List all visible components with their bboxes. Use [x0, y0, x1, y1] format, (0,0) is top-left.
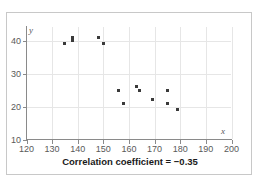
- gridline-x-140: [78, 27, 79, 139]
- x-tick-label-120: 120: [15, 144, 39, 154]
- x-tick-label-130: 130: [40, 144, 64, 154]
- x-axis-label: x: [221, 126, 225, 136]
- x-tick-label-150: 150: [91, 144, 115, 154]
- gridline-x-130: [52, 27, 53, 139]
- y-tick-label-40: 40: [1, 36, 21, 46]
- y-tick-label-20: 20: [1, 102, 21, 112]
- scatter-plot-figure: 10203040 120130140150160170180190200 y x…: [6, 12, 252, 175]
- x-tick-label-180: 180: [168, 144, 192, 154]
- y-tick-label-10: 10: [1, 135, 21, 145]
- data-point: [166, 102, 169, 105]
- data-point: [71, 39, 74, 42]
- y-tick-30: [23, 74, 27, 75]
- data-point: [138, 89, 141, 92]
- gridline-x-160: [129, 27, 130, 139]
- x-tick-label-160: 160: [117, 144, 141, 154]
- y-axis-line: [26, 26, 27, 139]
- y-tick-40: [23, 41, 27, 42]
- y-axis-label: y: [29, 25, 33, 35]
- x-tick-label-140: 140: [66, 144, 90, 154]
- data-point: [117, 89, 120, 92]
- gridline-x-200: [232, 27, 233, 139]
- gridline-x-170: [155, 27, 156, 139]
- data-point: [176, 108, 179, 111]
- chart-caption: Correlation coefficient = −0.35: [7, 156, 253, 167]
- data-point: [166, 89, 169, 92]
- x-tick-label-200: 200: [220, 144, 244, 154]
- y-tick-20: [23, 107, 27, 108]
- data-point: [122, 102, 125, 105]
- x-tick-label-190: 190: [194, 144, 218, 154]
- plot-area: 10203040 120130140150160170180190200 y x: [7, 13, 253, 176]
- data-point: [151, 98, 154, 101]
- gridline-x-190: [206, 27, 207, 139]
- y-tick-label-30: 30: [1, 69, 21, 79]
- gridline-x-180: [180, 27, 181, 139]
- data-point: [97, 36, 100, 39]
- data-point: [63, 42, 66, 45]
- data-point: [102, 42, 105, 45]
- x-tick-label-170: 170: [143, 144, 167, 154]
